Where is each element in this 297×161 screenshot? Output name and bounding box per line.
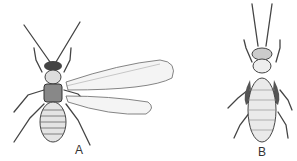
winged-insect-icon	[0, 0, 200, 161]
panel-label-b: B	[258, 146, 266, 158]
insect-b-illustration	[200, 0, 297, 161]
panel-label-a: A	[75, 144, 83, 156]
wingless-insect-icon	[200, 0, 297, 161]
insect-a-illustration	[0, 0, 200, 161]
